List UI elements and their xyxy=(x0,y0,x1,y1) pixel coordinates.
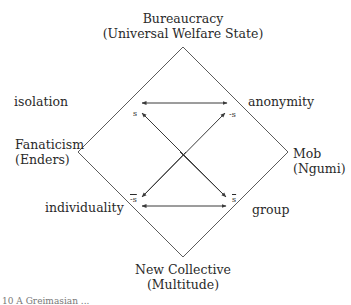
vertex-right-line2: (Ngumi) xyxy=(293,161,346,176)
vertex-bottom-line1: New Collective xyxy=(135,262,231,277)
vertex-top-line2: (Universal Welfare State) xyxy=(103,26,264,41)
vertex-left-line2: (Enders) xyxy=(15,152,84,167)
edge-label-isolation: isolation xyxy=(14,94,68,109)
edge-label-anonymity: anonymity xyxy=(248,94,314,109)
term-s-bar: s xyxy=(232,195,236,204)
vertex-left-line1: Fanaticism xyxy=(15,137,84,152)
term-neg-s-bar: -s xyxy=(130,195,137,204)
arrow-s-to-s-bar-tail xyxy=(180,152,226,197)
vertex-left-label: Fanaticism (Enders) xyxy=(15,137,84,167)
vertex-bottom-label: New Collective (Multitude) xyxy=(135,262,231,292)
term-s: s xyxy=(133,109,137,118)
term-neg-s: -s xyxy=(229,110,236,119)
vertex-right-label: Mob (Ngumi) xyxy=(293,146,346,176)
vertex-bottom-line2: (Multitude) xyxy=(135,277,231,292)
edge-label-individuality: individuality xyxy=(45,200,124,215)
vertex-right-line1: Mob xyxy=(293,146,346,161)
figure-caption: 10 A Greimasian ... xyxy=(2,296,89,305)
arrow-neg-s-to-neg-s-bar-tail xyxy=(142,152,186,197)
diamond-outline xyxy=(78,47,288,257)
vertex-top-line1: Bureaucracy xyxy=(103,11,264,26)
vertex-top-label: Bureaucracy (Universal Welfare State) xyxy=(103,11,264,41)
edge-label-group: group xyxy=(252,202,290,217)
